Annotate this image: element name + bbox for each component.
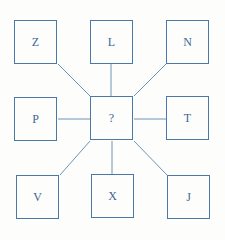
box-label: Z: [32, 35, 39, 50]
box-label: X: [108, 189, 117, 204]
connector-bottom-right: [134, 141, 167, 175]
box-label: P: [32, 112, 39, 127]
box-center: ?: [90, 96, 133, 140]
box-top-right: N: [166, 20, 209, 64]
box-bottom-left: V: [16, 175, 59, 219]
box-label: J: [186, 190, 191, 205]
box-bottom: X: [91, 174, 134, 218]
box-top-left: Z: [14, 20, 57, 64]
box-top: L: [90, 20, 133, 64]
box-bottom-right: J: [167, 175, 210, 219]
center-label: ?: [109, 111, 114, 126]
box-label: T: [184, 111, 191, 126]
box-label: L: [108, 35, 115, 50]
box-label: V: [33, 190, 42, 205]
connector-bottom-left: [60, 141, 90, 175]
box-label: N: [183, 35, 192, 50]
box-left: P: [14, 97, 57, 141]
connector-top-left: [58, 64, 90, 96]
connector-top-right: [134, 64, 166, 96]
box-right: T: [166, 96, 209, 140]
